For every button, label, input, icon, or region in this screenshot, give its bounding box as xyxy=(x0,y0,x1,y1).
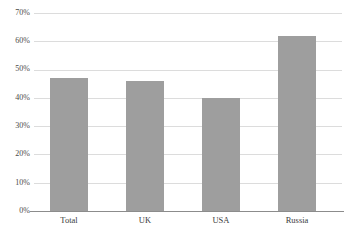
x-axis-line xyxy=(30,211,344,212)
bar-chart-figure: 70% 60% 50% 40% 30% 20% 10% 0% Total UK … xyxy=(0,0,353,240)
bar-uk[interactable] xyxy=(126,81,164,211)
x-tick-label-uk: UK xyxy=(110,215,180,225)
x-tick-label-russia: Russia xyxy=(262,215,332,225)
bar-usa[interactable] xyxy=(202,98,240,211)
x-tick-label-usa: USA xyxy=(186,215,256,225)
bar-total[interactable] xyxy=(50,78,88,211)
bars-layer xyxy=(0,0,353,240)
x-tick-label-total: Total xyxy=(34,215,104,225)
bar-russia[interactable] xyxy=(278,36,316,211)
